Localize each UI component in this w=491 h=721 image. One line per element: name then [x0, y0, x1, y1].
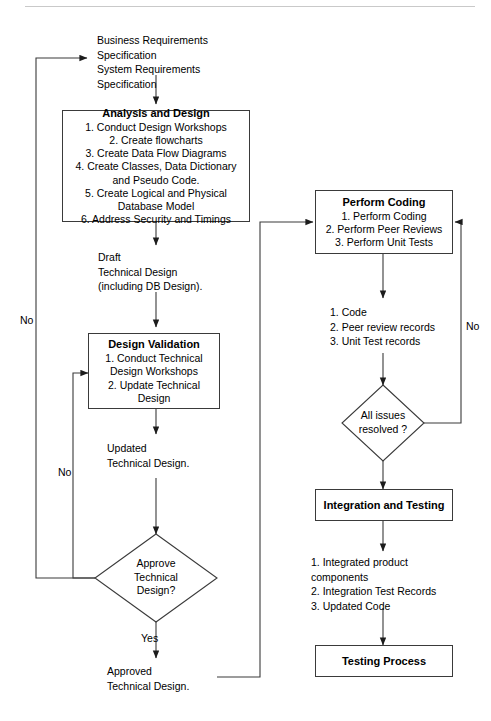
process-analysis-and-design-item-6: 6. Address Security and Timings — [81, 213, 231, 226]
process-analysis-and-design-item-1: 1. Conduct Design Workshops — [85, 121, 227, 134]
process-integration-and-testing-title: Integration and Testing — [324, 498, 445, 513]
process-design-validation-item-1: 1. Conduct Technical Design Workshops — [92, 352, 216, 378]
edge-label-no-inner: No — [58, 466, 71, 478]
process-design-validation-item-2: 2. Update Technical Design — [92, 379, 216, 405]
process-perform-coding-item-1: 1. Perform Coding — [341, 210, 426, 223]
edge-label-yes: Yes — [141, 632, 158, 644]
decision-all-issues-label: All issues resolved ? — [343, 409, 423, 436]
process-integration-and-testing[interactable]: Integration and Testing — [315, 489, 453, 521]
flowchart-canvas: Business Requirements Specification Syst… — [0, 0, 491, 721]
process-analysis-and-design-item-2: 2. Create flowcharts — [109, 134, 202, 147]
edge-label-no-outer: No — [20, 314, 33, 326]
process-perform-coding-item-3: 3. Perform Unit Tests — [335, 236, 433, 249]
process-analysis-and-design-title: Analysis and Design — [102, 106, 210, 121]
process-perform-coding-item-2: 2. Perform Peer Reviews — [326, 223, 443, 236]
process-analysis-and-design[interactable]: Analysis and Design 1. Conduct Design Wo… — [62, 110, 250, 222]
process-perform-coding-title: Perform Coding — [342, 195, 425, 210]
process-design-validation[interactable]: Design Validation 1. Conduct Technical D… — [88, 333, 220, 409]
artifact-updated-technical-design: Updated Technical Design. — [107, 441, 247, 470]
process-analysis-and-design-item-3: 3. Create Data Flow Diagrams — [85, 147, 226, 160]
process-analysis-and-design-item-4: 4. Create Classes, Data Dictionary and P… — [66, 160, 246, 186]
artifact-integration-outputs: 1. Integrated product components 2. Inte… — [311, 555, 481, 613]
edge-label-no-coding: No — [466, 320, 479, 332]
process-analysis-and-design-item-5: 5. Create Logical and Physical Database … — [66, 187, 246, 213]
process-design-validation-title: Design Validation — [108, 337, 200, 352]
process-testing-process[interactable]: Testing Process — [315, 645, 453, 677]
process-testing-process-title: Testing Process — [342, 654, 426, 669]
artifact-requirements: Business Requirements Specification Syst… — [97, 33, 257, 91]
decision-approve-design-label: Approve Technical Design? — [116, 557, 196, 598]
process-perform-coding[interactable]: Perform Coding 1. Perform Coding 2. Perf… — [315, 190, 453, 254]
artifact-draft-technical-design: Draft Technical Design (including DB Des… — [98, 250, 243, 294]
artifact-approved-technical-design: Approved Technical Design. — [107, 664, 247, 693]
